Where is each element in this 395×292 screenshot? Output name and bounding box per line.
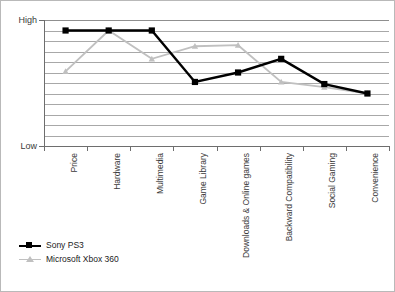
gridline <box>44 52 389 53</box>
x-axis-label-game-library: Game Library <box>199 153 207 205</box>
chart-legend: Sony PS3Microsoft Xbox 360 <box>19 238 119 266</box>
gridline <box>44 94 389 95</box>
gridline <box>44 62 389 63</box>
gridline <box>44 73 389 74</box>
gridline <box>44 125 389 126</box>
x-axis-label-social-gaming: Social Gaming <box>328 153 336 208</box>
y-axis-label-high: High <box>3 15 37 25</box>
legend-label: Microsoft Xbox 360 <box>46 254 119 264</box>
x-tick <box>217 146 218 151</box>
gridline <box>44 20 389 21</box>
x-axis-label-convenience: Convenience <box>371 153 379 203</box>
x-tick <box>346 146 347 151</box>
x-axis-label-multimedia: Multimedia <box>156 153 164 194</box>
legend-swatch-triangle-icon <box>19 254 41 264</box>
legend-swatch-square-icon <box>19 240 41 250</box>
gridline <box>44 31 389 32</box>
x-axis-label-downloads-online-games: Downloads & Online games <box>242 153 250 258</box>
x-axis-label-price: Price <box>70 153 78 172</box>
legend-label: Sony PS3 <box>46 240 84 250</box>
gridline <box>44 83 389 84</box>
x-tick <box>173 146 174 151</box>
y-axis-label-low: Low <box>3 141 37 151</box>
legend-item-sony-ps3[interactable]: Sony PS3 <box>19 238 119 252</box>
x-axis-label-backward-compatibility: Backward Compatibility <box>285 153 293 241</box>
chart-figure: High Low PriceHardwareMultimediaGame Lib… <box>0 0 395 292</box>
gridline <box>44 104 389 105</box>
y-tick-high <box>39 20 44 21</box>
gridline <box>44 41 389 42</box>
x-axis-label-hardware: Hardware <box>113 153 121 190</box>
plot-area <box>44 20 389 146</box>
x-tick <box>44 146 45 151</box>
legend-item-microsoft-xbox-360[interactable]: Microsoft Xbox 360 <box>19 252 119 266</box>
x-tick <box>389 146 390 151</box>
gridline <box>44 136 389 137</box>
x-tick <box>303 146 304 151</box>
x-tick <box>87 146 88 151</box>
x-tick <box>130 146 131 151</box>
y-axis-line <box>44 20 45 146</box>
gridline <box>44 115 389 116</box>
x-tick <box>260 146 261 151</box>
